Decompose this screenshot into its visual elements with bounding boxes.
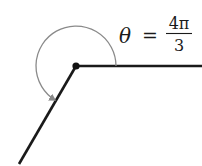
fraction-denominator: 3 bbox=[174, 36, 184, 55]
fraction-numerator: 4π bbox=[169, 14, 190, 33]
angle-diagram: θ = 4π 3 bbox=[0, 0, 202, 166]
vertex-dot bbox=[72, 62, 79, 69]
equals-sign: = bbox=[142, 24, 158, 46]
terminal-side-ray bbox=[19, 66, 76, 164]
theta-symbol: θ bbox=[119, 24, 131, 48]
